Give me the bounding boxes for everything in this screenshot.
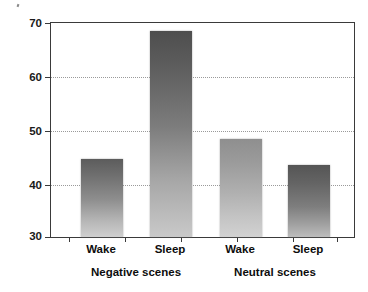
y-axis-title: Recognition score (%): [0, 0, 22, 44]
bar-negative-sleep: [150, 31, 192, 237]
x-tick-0: [69, 237, 70, 242]
y-tick-50: [45, 131, 51, 132]
gridline-50: [51, 131, 354, 132]
x-tick-1: [125, 237, 126, 242]
bar-chart-figure: Recognition score (%) 70 60 50 40 30 Wak…: [0, 0, 368, 292]
gridline-60: [51, 77, 354, 78]
bar-neutral-wake: [220, 139, 262, 237]
y-tick-60: [45, 77, 51, 78]
y-tick-label-60: 60: [29, 71, 42, 83]
group-label-negative-scenes: Negative scenes: [91, 266, 181, 278]
x-tick-5: [337, 237, 338, 242]
x-tick-3: [237, 237, 238, 242]
y-tick-label-50: 50: [29, 125, 42, 137]
group-label-neutral-scenes: Neutral scenes: [234, 266, 316, 278]
x-tick-2: [181, 237, 182, 242]
y-tick-70: [45, 23, 51, 24]
plot-area: 70 60 50 40 30: [50, 22, 355, 238]
x-label-negative-wake: Wake: [86, 243, 116, 255]
y-tick-label-40: 40: [29, 179, 42, 191]
y-tick-30: [45, 237, 51, 238]
x-label-negative-sleep: Sleep: [155, 243, 186, 255]
x-label-neutral-wake: Wake: [225, 243, 255, 255]
y-tick-40: [45, 185, 51, 186]
y-tick-label-70: 70: [29, 17, 42, 29]
x-tick-4: [293, 237, 294, 242]
bar-neutral-sleep: [288, 165, 330, 237]
y-tick-label-30: 30: [29, 230, 42, 242]
bar-negative-wake: [81, 159, 123, 237]
x-label-neutral-sleep: Sleep: [293, 243, 324, 255]
